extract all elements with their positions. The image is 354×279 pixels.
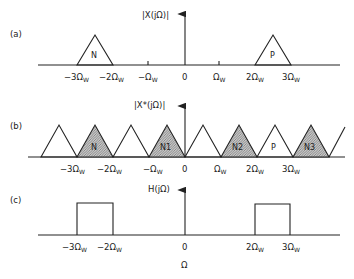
tick-label: 2ΩW (246, 164, 264, 175)
y-axis-label-c: H(jΩ) (148, 184, 170, 194)
triangle-label-N3: N3 (304, 143, 315, 152)
tick-label: 0 (182, 72, 187, 82)
filter-passband-positive (255, 204, 290, 235)
triangle-N-shaded (77, 125, 113, 157)
triangle-N1-shaded (149, 125, 185, 157)
triangle-label-N: N (91, 143, 97, 152)
triangle-N (77, 35, 113, 65)
triangle-N3-shaded (293, 125, 329, 157)
tick-labels-b: −3ΩW −2ΩW −ΩW 0 ΩW 2ΩW 3ΩW (60, 164, 300, 175)
x-axis-label: Ω (181, 260, 188, 270)
panel-c: (c) H(jΩ) −3ΩW −2ΩW 0 2ΩW 3ΩW Ω (10, 184, 340, 270)
tick-label: −3ΩW (60, 164, 85, 175)
tick-label: −2ΩW (99, 72, 124, 83)
tick-label: −3ΩW (64, 72, 89, 83)
triangle-label-N: N (91, 51, 97, 60)
tick-label: 3ΩW (282, 242, 300, 253)
tick-labels-c: −3ΩW −2ΩW 0 2ΩW 3ΩW (62, 242, 300, 253)
triangle-N2-shaded (221, 125, 257, 157)
triangle-P (255, 35, 291, 65)
filter-passband-negative (77, 203, 113, 235)
tick-label: 0 (182, 242, 187, 252)
triangle-replica (185, 125, 221, 157)
panel-label-b: (b) (10, 121, 22, 131)
triangle-label-N2: N2 (232, 143, 243, 152)
sampling-spectra-diagram: (a) |X(jΩ)| N P −3ΩW −2ΩW −ΩW 0 ΩW 2ΩW 3… (0, 0, 354, 279)
tick-label: 2ΩW (246, 242, 264, 253)
y-axis-label-b: |X*(jΩ)| (134, 100, 165, 110)
triangle-partial-rise (329, 127, 345, 157)
triangle-label-N1: N1 (160, 143, 171, 152)
tick-label: 3ΩW (282, 164, 300, 175)
panel-a: (a) |X(jΩ)| N P −3ΩW −2ΩW −ΩW 0 ΩW 2ΩW 3… (10, 10, 340, 83)
tick-label: −2ΩW (97, 164, 122, 175)
panel-label-a: (a) (10, 29, 22, 39)
tick-label: 2ΩW (246, 72, 264, 83)
triangle-label-P: P (271, 143, 276, 152)
tick-label: −ΩW (143, 164, 163, 175)
triangle-replica (113, 125, 149, 157)
y-axis-label-a: |X(jΩ)| (142, 10, 169, 20)
tick-labels-a: −3ΩW −2ΩW −ΩW 0 ΩW 2ΩW 3ΩW (64, 72, 300, 83)
tick-label: 0 (182, 164, 187, 174)
tick-label: 3ΩW (282, 72, 300, 83)
tick-label: −ΩW (138, 72, 158, 83)
triangle-P (257, 125, 293, 157)
triangle-replica (41, 125, 77, 157)
panel-label-c: (c) (10, 195, 21, 205)
tick-label: −3ΩW (62, 242, 87, 253)
tick-label: ΩW (213, 72, 226, 83)
tick-label: ΩW (214, 164, 227, 175)
triangle-label-P: P (270, 51, 275, 60)
panel-b: (b) |X*(jΩ)| N N1 N2 P N3 −3ΩW −2ΩW −ΩW … (10, 100, 345, 175)
tick-label: −2ΩW (97, 242, 122, 253)
